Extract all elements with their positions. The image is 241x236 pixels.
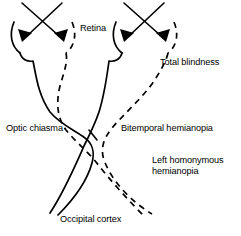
- label-optic-chiasma: Optic chiasma: [6, 123, 63, 134]
- label-bitemporal-hemianopia: Bitemporal hemianopia: [121, 123, 213, 134]
- label-left-homonymous-line2: hemianopia: [152, 166, 199, 177]
- pathway-illustration: [0, 0, 241, 236]
- right-retina-arc-dashed: [168, 22, 177, 53]
- left-eye-arrow-left: [18, 29, 32, 42]
- right-eye-rays: [120, 3, 170, 42]
- right-eye-arrow-right: [156, 29, 170, 42]
- label-occipital-cortex: Occipital cortex: [60, 214, 121, 225]
- left-dashed-tract: [58, 53, 144, 216]
- left-retina-arc-dashed: [66, 22, 75, 53]
- left-retina-arc-solid: [11, 22, 20, 53]
- left-eye-rays: [18, 3, 68, 42]
- label-total-blindness: Total blindness: [160, 57, 219, 68]
- label-retina: Retina: [80, 23, 106, 34]
- left-eye-arrow-right: [54, 29, 68, 42]
- left-optic-nerve-solid: [20, 53, 93, 215]
- right-retina-arc-solid: [113, 22, 122, 53]
- visual-pathway-diagram: Retina Total blindness Optic chiasma Bit…: [0, 0, 241, 236]
- right-eye-arrow-left: [120, 29, 134, 42]
- label-left-homonymous-line1: Left homonymous: [152, 155, 224, 166]
